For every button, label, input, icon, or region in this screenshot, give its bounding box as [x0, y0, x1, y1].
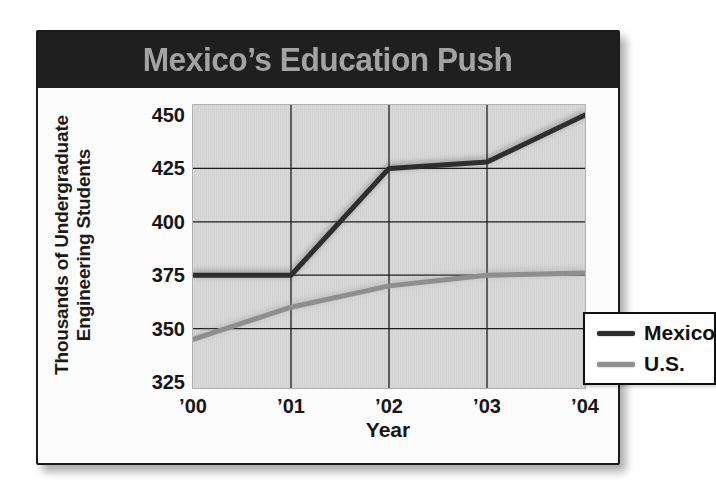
legend-item-label: Mexico — [644, 321, 715, 345]
y-axis-label-line2: Engineering Students — [73, 95, 95, 395]
legend-item-us: U.S. — [585, 351, 714, 377]
y-axis-tick-label: 325 — [131, 371, 185, 393]
legend-swatch-mexico — [597, 331, 635, 336]
x-axis-tick-label: ’02 — [359, 394, 419, 418]
plot-svg — [193, 105, 585, 388]
x-axis-tick-label: ’00 — [163, 394, 223, 418]
y-axis-label-line1: Thousands of Undergraduate — [51, 95, 73, 395]
y-axis-tick-label: 375 — [131, 264, 185, 286]
x-axis-tick-label: ’03 — [457, 394, 517, 418]
y-axis-tick-label: 400 — [131, 211, 185, 233]
legend-swatch-us — [597, 362, 635, 367]
x-axis-label: Year — [348, 418, 428, 442]
legend: MexicoU.S. — [583, 312, 716, 385]
legend-item-mexico: Mexico — [585, 320, 714, 346]
x-axis-tick-label: ’04 — [555, 394, 615, 418]
y-axis-tick-label: 450 — [131, 104, 185, 126]
chart-card: Mexico’s Education Push Thousands of Und… — [36, 30, 620, 465]
chart-title: Mexico’s Education Push — [143, 41, 513, 79]
legend-item-label: U.S. — [644, 352, 685, 376]
y-axis-tick-label: 350 — [131, 318, 185, 340]
chart-area: Thousands of Undergraduate Engineering S… — [38, 88, 618, 463]
header-band: Mexico’s Education Push — [38, 32, 618, 88]
y-axis-label: Thousands of Undergraduate Engineering S… — [51, 95, 97, 395]
plot-area: MexicoU.S. — [193, 105, 585, 388]
y-axis-tick-label: 425 — [131, 157, 185, 179]
x-axis-tick-label: ’01 — [261, 394, 321, 418]
